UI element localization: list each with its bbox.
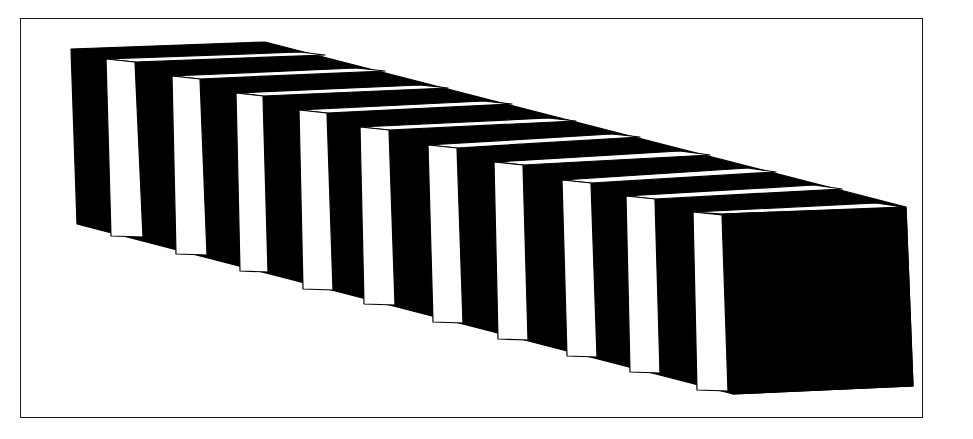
side-white-stripe: [428, 145, 463, 323]
front-black-face: [723, 208, 913, 394]
side-white-stripe: [693, 212, 728, 391]
side-white-stripe: [626, 196, 660, 373]
side-white-stripe: [299, 110, 333, 290]
side-white-stripe: [236, 93, 268, 272]
side-white-stripe: [494, 162, 528, 340]
front-end-face: [723, 208, 913, 394]
side-white-stripe: [562, 180, 597, 357]
striped-bar-illusion: [0, 0, 973, 439]
side-white-stripe: [360, 127, 395, 305]
